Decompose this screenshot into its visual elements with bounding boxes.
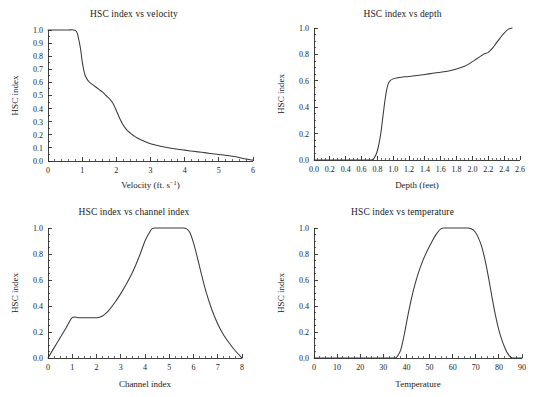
y-tick-label: 0.6 <box>33 78 43 87</box>
x-tick-label: 90 <box>518 363 526 372</box>
y-axis-title: HSC index <box>10 273 20 313</box>
x-tick-label: 8 <box>240 363 244 372</box>
panel-temperature-plot: 01020304050607080900.00.20.40.60.81.0HSC… <box>268 198 537 397</box>
panel-temperature: HSC index vs temperature 010203040506070… <box>268 198 537 397</box>
y-tick-label: 0.6 <box>299 77 309 86</box>
x-axis-title: Temperature <box>395 379 440 389</box>
x-tick-label: 4 <box>143 363 147 372</box>
x-tick-label: 20 <box>356 363 364 372</box>
x-tick-label: 3 <box>119 363 123 372</box>
y-tick-label: 0.1 <box>33 144 43 153</box>
x-tick-label: 2 <box>114 166 118 175</box>
y-axis-title: HSC index <box>276 273 286 313</box>
y-tick-label: 1.0 <box>33 26 43 35</box>
x-tick-label: 2.2 <box>483 165 493 174</box>
y-tick-label: 0.8 <box>33 250 43 259</box>
y-tick-label: 0.5 <box>33 91 43 100</box>
x-tick-label: 70 <box>472 363 480 372</box>
y-tick-label: 0.2 <box>33 131 43 140</box>
x-tick-label: 2.6 <box>515 165 525 174</box>
panel-depth: HSC index vs depth 0.00.20.40.60.81.01.2… <box>268 0 537 198</box>
x-tick-label: 2.4 <box>499 165 509 174</box>
x-tick-label: 1.6 <box>436 165 446 174</box>
y-tick-label: 1.0 <box>299 224 309 233</box>
x-tick-label: 6 <box>192 363 196 372</box>
x-axis-title: Depth (feet) <box>395 180 439 190</box>
x-tick-label: 1.8 <box>452 165 462 174</box>
x-tick-label: 30 <box>379 363 387 372</box>
y-tick-label: 0.8 <box>299 250 309 259</box>
x-tick-label: 0.8 <box>372 165 382 174</box>
x-tick-label: 2 <box>95 363 99 372</box>
y-tick-label: 0.0 <box>299 156 309 165</box>
y-tick-label: 0.4 <box>299 103 309 112</box>
data-curve <box>48 30 253 161</box>
y-tick-label: 0.2 <box>299 130 309 139</box>
y-tick-label: 0.7 <box>33 65 43 74</box>
y-tick-label: 0.4 <box>33 302 43 311</box>
x-tick-label: 0.6 <box>357 165 367 174</box>
panel-depth-plot: 0.00.20.40.60.81.01.21.41.61.82.02.22.42… <box>268 0 537 198</box>
x-tick-label: 0 <box>46 363 50 372</box>
x-tick-label: 4 <box>183 166 187 175</box>
y-tick-label: 0.0 <box>299 354 309 363</box>
x-axis-title: Velocity (ft. s−1) <box>121 179 180 190</box>
panel-channel-index-plot: 0123456780.00.20.40.60.81.0HSC indexChan… <box>0 198 268 397</box>
x-tick-label: 1 <box>80 166 84 175</box>
y-tick-label: 0.2 <box>33 328 43 337</box>
panel-channel-index: HSC index vs channel index 0123456780.00… <box>0 198 268 397</box>
panel-velocity: HSC index vs velocity 01234560.00.10.20.… <box>0 0 268 198</box>
data-curve <box>48 228 242 358</box>
y-tick-label: 0.8 <box>33 52 43 61</box>
y-axis-title: HSC index <box>276 74 286 114</box>
x-tick-label: 60 <box>449 363 457 372</box>
x-axis-title: Channel index <box>119 379 172 389</box>
x-tick-label: 10 <box>333 363 341 372</box>
x-tick-label: 1 <box>70 363 74 372</box>
y-axis-title: HSC index <box>10 75 20 115</box>
x-tick-label: 0 <box>46 166 50 175</box>
y-tick-label: 0.0 <box>33 354 43 363</box>
y-tick-label: 0.6 <box>33 276 43 285</box>
y-tick-label: 0.3 <box>33 118 43 127</box>
x-tick-label: 0.2 <box>325 165 335 174</box>
x-tick-label: 1.2 <box>404 165 414 174</box>
y-tick-label: 0.6 <box>299 276 309 285</box>
y-tick-label: 0.0 <box>33 157 43 166</box>
x-tick-label: 0.0 <box>309 165 319 174</box>
x-tick-label: 40 <box>402 363 410 372</box>
x-tick-label: 5 <box>167 363 171 372</box>
y-tick-label: 0.8 <box>299 50 309 59</box>
x-tick-label: 7 <box>216 363 220 372</box>
x-tick-label: 80 <box>495 363 503 372</box>
x-tick-label: 6 <box>251 166 255 175</box>
x-tick-label: 3 <box>149 166 153 175</box>
x-tick-label: 1.0 <box>388 165 398 174</box>
data-curve <box>314 228 522 358</box>
x-tick-label: 2.0 <box>467 165 477 174</box>
y-tick-label: 0.2 <box>299 328 309 337</box>
panel-velocity-plot: 01234560.00.10.20.30.40.50.60.70.80.91.0… <box>0 0 268 198</box>
y-tick-label: 0.4 <box>299 302 309 311</box>
y-tick-label: 0.9 <box>33 39 43 48</box>
data-curve <box>314 28 512 160</box>
x-tick-label: 1.4 <box>420 165 430 174</box>
x-tick-label: 50 <box>426 363 434 372</box>
x-tick-label: 0 <box>312 363 316 372</box>
x-tick-label: 5 <box>217 166 221 175</box>
hsc-index-figure: HSC index vs velocity 01234560.00.10.20.… <box>0 0 537 397</box>
y-tick-label: 1.0 <box>299 24 309 33</box>
y-tick-label: 0.4 <box>33 105 43 114</box>
x-tick-label: 0.4 <box>341 165 351 174</box>
y-tick-label: 1.0 <box>33 224 43 233</box>
